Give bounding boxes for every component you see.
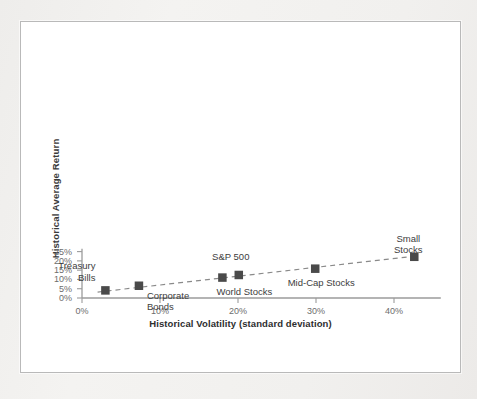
screenshot-page: Historical Average Return 0%5%10%15%20%2…: [0, 0, 477, 399]
data-point-marker: [101, 286, 110, 295]
data-point-marker: [235, 271, 244, 280]
data-point-marker: [218, 273, 227, 282]
x-axis-title: Historical Volatility (standard deviatio…: [21, 318, 460, 329]
data-point-marker: [311, 264, 320, 273]
trend-line: [98, 256, 419, 292]
data-point-marker: [410, 253, 419, 262]
y-axis-title-text: Historical Average Return: [51, 138, 62, 258]
data-point-marker: [135, 282, 144, 291]
figure-panel: Historical Average Return 0%5%10%15%20%2…: [20, 21, 461, 373]
scatter-chart: Historical Average Return 0%5%10%15%20%2…: [21, 22, 460, 372]
